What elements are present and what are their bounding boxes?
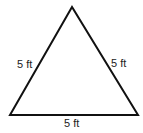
triangle-diagram: 5 ft 5 ft 5 ft xyxy=(0,0,143,133)
left-side-label: 5 ft xyxy=(17,58,32,70)
right-side-label: 5 ft xyxy=(111,57,126,69)
bottom-side-label: 5 ft xyxy=(64,117,79,129)
